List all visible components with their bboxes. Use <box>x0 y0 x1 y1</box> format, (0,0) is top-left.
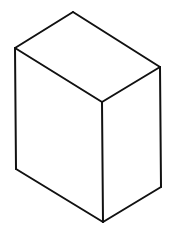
box-faces <box>15 12 161 222</box>
edge-vertical-front <box>102 102 103 222</box>
edge-vertical-left <box>15 48 16 169</box>
diagram-canvas <box>0 0 174 232</box>
isometric-box-drawing <box>0 0 174 232</box>
edge-vertical-right <box>160 67 161 187</box>
